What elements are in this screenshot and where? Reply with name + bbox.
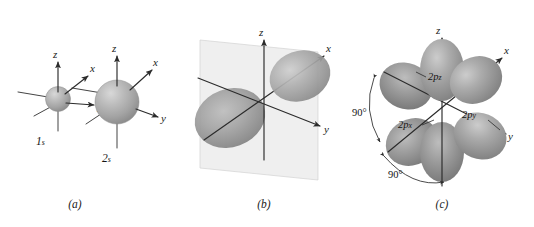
panel-a: z x y 1s z x y 2s	[0, 0, 178, 227]
sphere-2s	[95, 80, 139, 124]
axis-label-z-c: z	[435, 24, 441, 36]
panel-c: z x y 2pz 2px 2py 90° 90° (c)	[350, 0, 534, 227]
angle-arc-upper	[369, 78, 380, 142]
orbital-label-2px: 2px	[398, 119, 413, 130]
panel-caption-c: (c)	[436, 198, 449, 211]
orbital-label-2py: 2py	[462, 109, 477, 120]
axis-label-z-2s: z	[111, 42, 117, 54]
orbital-label-2s: 2s	[102, 152, 111, 164]
axis-label-x-2s: x	[152, 56, 158, 68]
orbital-2s: z x y 2s	[72, 42, 166, 164]
panel-c-svg: z x y 2pz 2px 2py 90° 90° (c)	[350, 0, 534, 227]
orbital-1s: z x y 1s	[18, 48, 103, 147]
axis-label-y-2s: y	[160, 112, 166, 124]
orbital-figure: z x y 1s z x y 2s	[0, 0, 534, 227]
angle-label-lower: 90°	[388, 169, 403, 180]
panel-a-svg: z x y 1s z x y 2s	[0, 0, 178, 227]
axis-x-1s	[65, 76, 88, 94]
panel-caption-b: (b)	[257, 198, 271, 211]
axis-label-z-b: z	[258, 26, 264, 38]
axis-label-y-c: y	[507, 130, 513, 142]
axis-x-2s	[130, 70, 152, 90]
axis-label-x-b: x	[325, 42, 331, 54]
axis-label-x-c: x	[503, 44, 509, 56]
orbital-label-1s: 1s	[36, 135, 45, 147]
panel-caption-a: (a)	[68, 198, 82, 211]
axis-label-x-1s: x	[89, 62, 95, 74]
axis-y-2s	[136, 109, 158, 117]
panel-b-svg: z x y (b)	[178, 0, 350, 227]
angle-label-upper: 90°	[352, 107, 367, 118]
axis-label-z-1s: z	[52, 48, 58, 60]
axis-y-1s	[66, 103, 94, 105]
axis-label-y-b: y	[323, 123, 329, 135]
orbital-label-2pz: 2pz	[428, 71, 442, 82]
panel-b: z x y (b)	[178, 0, 350, 227]
